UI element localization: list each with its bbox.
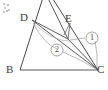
arc-from-angle-two-to-c (63, 52, 96, 69)
angle-marker-two-label: 2 (55, 46, 59, 54)
segment-d-to-e (32, 20, 68, 39)
cevian-lines (32, 0, 98, 70)
segment-d-to-c (32, 20, 98, 70)
angle-marker-one-label: 1 (90, 34, 94, 42)
vertex-label-c: C (97, 64, 104, 75)
triangle-outline (20, 0, 98, 70)
geometry-canvas (0, 0, 108, 90)
vertex-label-b: B (6, 64, 13, 75)
vertex-label-e: E (65, 13, 72, 24)
geometry-figure: D B C E 1 2 (0, 0, 108, 90)
vertex-label-d: D (20, 12, 28, 23)
